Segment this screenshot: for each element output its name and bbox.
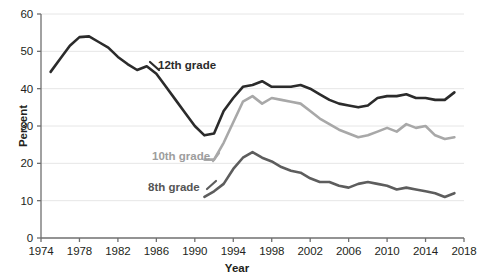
- y-axis-title: Percent: [17, 105, 29, 147]
- y-tick-label: 60: [7, 8, 33, 20]
- x-tick-label: 1982: [98, 245, 138, 257]
- x-tick-label: 1994: [213, 245, 253, 257]
- series-label-grade8: 8th grade: [148, 181, 200, 193]
- x-tick-label: 1998: [252, 245, 292, 257]
- series-line-8th-grade: [204, 152, 454, 197]
- series-label-grade12: 12th grade: [158, 59, 216, 71]
- y-tick-label: 0: [7, 232, 33, 244]
- y-tick-label: 20: [7, 157, 33, 169]
- y-tick-label: 10: [7, 195, 33, 207]
- series-line-10th-grade: [204, 96, 454, 159]
- x-tick-label: 1990: [175, 245, 215, 257]
- x-tick-label: 1978: [59, 245, 99, 257]
- y-tick-label: 50: [7, 45, 33, 57]
- series-label-grade10: 10th grade: [152, 150, 210, 162]
- x-tick-label: 1986: [136, 245, 176, 257]
- leader-grade8: [207, 181, 216, 189]
- x-tick-label: 1974: [21, 245, 61, 257]
- x-tick-label: 2002: [290, 245, 330, 257]
- x-axis-title: Year: [225, 262, 249, 274]
- x-tick-label: 2006: [329, 245, 369, 257]
- x-tick-label: 2014: [406, 245, 446, 257]
- y-tick-label: 40: [7, 83, 33, 95]
- gridlines: [41, 14, 464, 201]
- series-lines: [51, 36, 455, 197]
- x-tick-label: 2010: [367, 245, 407, 257]
- x-tick-label: 2018: [444, 245, 481, 257]
